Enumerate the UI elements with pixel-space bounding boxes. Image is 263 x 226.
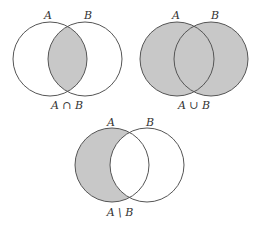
set-a-label: A [106,116,115,129]
set-b-label: B [83,9,92,22]
venn-intersection: A B A ∩ B [13,9,122,112]
set-a-label: A [171,9,180,22]
caption-intersection: A ∩ B [50,99,83,112]
caption-union: A ∪ B [177,99,210,112]
venn-diagrams: A B A ∩ B A B A ∪ B A B A \ B [0,0,263,226]
set-b-label: B [145,116,154,129]
caption-difference: A \ B [106,206,134,219]
venn-difference: A B A \ B [75,116,184,219]
set-a-label: A [43,9,52,22]
venn-union: A B A ∪ B [140,9,248,112]
set-b-label: B [210,9,219,22]
